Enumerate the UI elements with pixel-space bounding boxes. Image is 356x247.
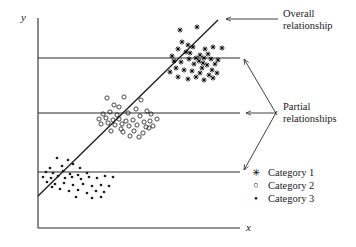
legend-item-category-2: ○ Category 2	[249, 179, 314, 192]
axis-lines	[38, 18, 240, 228]
y-axis-label: y	[21, 12, 26, 23]
legend-label-category-2: Category 2	[268, 180, 314, 191]
open-circle-marker-icon: ○	[249, 179, 263, 192]
legend: ✳ Category 1 ○ Category 2 • Category 3	[249, 166, 314, 205]
series-category-1-points	[168, 25, 224, 82]
series-category-2-points	[97, 95, 159, 139]
legend-label-category-1: Category 1	[268, 167, 314, 178]
small-dot-marker-icon: •	[249, 192, 263, 205]
legend-item-category-3: • Category 3	[249, 192, 314, 205]
scatter-diagram-figure: y x Overall relationship Partial relatio…	[0, 0, 356, 247]
x-axis-label: x	[246, 222, 251, 233]
partial-relationships-leader	[244, 59, 277, 170]
legend-item-category-1: ✳ Category 1	[249, 166, 314, 179]
series-category-3-points	[42, 157, 115, 200]
star-marker-icon: ✳	[249, 166, 263, 179]
legend-label-category-3: Category 3	[268, 193, 314, 204]
partial-relationships-annotation: Partial relationships	[283, 101, 337, 125]
overall-relationship-annotation: Overall relationship	[283, 8, 333, 32]
overall-regression-line	[38, 20, 218, 196]
